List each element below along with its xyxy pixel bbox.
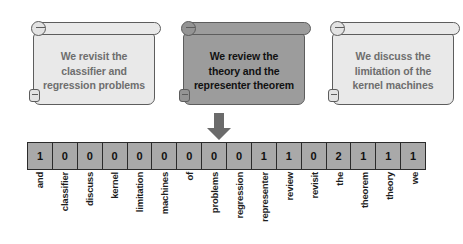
vector-cell[interactable]: 0: [103, 143, 128, 169]
vector-cell[interactable]: 1: [252, 143, 277, 169]
document-card-body: We review the theory and the representer…: [183, 33, 305, 105]
document-card-body: We discuss the limitation of the kernel …: [332, 33, 454, 105]
vector-label-slot: theory: [376, 172, 401, 244]
document-card-body: We revisit the classifier and regression…: [33, 33, 155, 105]
vector-label-slot: classifier: [52, 172, 77, 244]
scroll-roll-top: [333, 22, 460, 35]
vector-label: of: [184, 172, 195, 181]
vector-cell[interactable]: 0: [202, 143, 227, 169]
scroll-roll-top: [184, 22, 311, 35]
vector-cell[interactable]: 0: [152, 143, 177, 169]
document-card-revisit[interactable]: We revisit the classifier and regression…: [33, 22, 155, 105]
vector-cell[interactable]: 0: [177, 143, 202, 169]
scroll-curl-top-icon: [181, 21, 196, 36]
vector-label: problems: [209, 172, 220, 213]
vector-label-slot: theorem: [351, 172, 376, 244]
vector-cell[interactable]: 1: [376, 143, 401, 169]
vector-label-slot: regression: [227, 172, 252, 244]
vector-label: regression: [233, 172, 244, 219]
vector-label-slot: we: [401, 172, 426, 244]
vector-label-slot: and: [27, 172, 52, 244]
vector-label: theory: [383, 172, 394, 200]
vector-cell[interactable]: 2: [327, 143, 352, 169]
scroll-curl-bottom-icon: [179, 89, 190, 102]
vector-label: representer: [258, 172, 269, 222]
vector-label: review: [283, 172, 294, 200]
bag-of-words-vector: 1000000001102111: [27, 142, 426, 170]
bag-of-words-labels: andclassifierdiscusskernellimitationmach…: [27, 172, 426, 244]
vector-label-slot: machines: [152, 172, 177, 244]
vector-label: the: [333, 172, 344, 186]
down-arrow-icon: [206, 113, 232, 141]
vector-label-slot: kernel: [102, 172, 127, 244]
vector-label: we: [408, 172, 419, 184]
vector-label: limitation: [134, 172, 145, 212]
vector-label: discuss: [84, 172, 95, 206]
vector-cell[interactable]: 0: [78, 143, 103, 169]
vector-label-slot: of: [177, 172, 202, 244]
scroll-curl-top-icon: [330, 21, 345, 36]
vector-label-slot: the: [326, 172, 351, 244]
vector-cell[interactable]: 1: [277, 143, 302, 169]
scroll-roll-top: [34, 22, 161, 35]
scroll-curl-bottom-icon: [328, 89, 339, 102]
scroll-curl-bottom-icon: [29, 89, 40, 102]
vector-cell[interactable]: 0: [302, 143, 327, 169]
vector-cell[interactable]: 1: [28, 143, 53, 169]
vector-label: kernel: [109, 172, 120, 199]
vector-label-slot: representer: [251, 172, 276, 244]
vector-label-slot: discuss: [77, 172, 102, 244]
document-card-review[interactable]: We review the theory and the representer…: [183, 22, 305, 105]
vector-label-slot: revisit: [301, 172, 326, 244]
vector-label: revisit: [308, 172, 319, 199]
vector-cell[interactable]: 1: [401, 143, 425, 169]
vector-label: classifier: [59, 172, 70, 211]
document-card-text: We revisit the classifier and regression…: [37, 49, 151, 92]
scroll-curl-top-icon: [31, 21, 46, 36]
document-card-discuss[interactable]: We discuss the limitation of the kernel …: [332, 22, 454, 105]
vector-label-slot: review: [276, 172, 301, 244]
vector-label: theorem: [358, 172, 369, 208]
diagram-canvas: We revisit the classifier and regression…: [0, 0, 463, 244]
document-card-text: We discuss the limitation of the kernel …: [347, 49, 440, 92]
vector-cell[interactable]: 1: [351, 143, 376, 169]
vector-label-slot: limitation: [127, 172, 152, 244]
vector-cell[interactable]: 0: [53, 143, 78, 169]
vector-label-slot: problems: [202, 172, 227, 244]
document-card-text: We review the theory and the representer…: [188, 49, 300, 92]
vector-label: machines: [159, 172, 170, 214]
vector-cell[interactable]: 0: [227, 143, 252, 169]
vector-cell[interactable]: 0: [128, 143, 153, 169]
vector-label: and: [34, 172, 45, 188]
